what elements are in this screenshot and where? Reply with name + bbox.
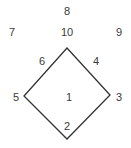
label-right-field: 9 bbox=[116, 27, 122, 38]
label-shortstop: 6 bbox=[39, 56, 45, 67]
label-catcher: 2 bbox=[64, 121, 70, 132]
label-center-field: 8 bbox=[64, 6, 70, 17]
baseball-diagram: 8 7 10 9 6 4 5 1 3 2 bbox=[0, 0, 131, 148]
label-third-base: 5 bbox=[13, 92, 19, 103]
label-second-base: 4 bbox=[93, 56, 99, 67]
label-pitcher: 1 bbox=[66, 92, 72, 103]
label-short-center: 10 bbox=[61, 27, 73, 38]
label-first-base: 3 bbox=[116, 92, 122, 103]
label-left-field: 7 bbox=[9, 27, 15, 38]
